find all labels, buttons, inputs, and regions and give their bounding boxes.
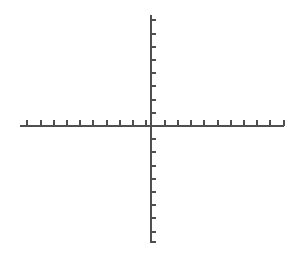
x-axis-tick — [177, 120, 179, 126]
x-axis-tick — [92, 120, 94, 126]
x-axis-tick — [269, 120, 271, 126]
y-axis-tick — [150, 217, 156, 219]
x-axis-tick — [203, 120, 205, 126]
x-axis-tick — [230, 120, 232, 126]
y-axis-tick — [150, 151, 156, 153]
y-axis-tick — [150, 178, 156, 180]
x-axis-tick — [164, 120, 166, 126]
y-axis — [150, 15, 152, 243]
x-axis-tick — [145, 120, 147, 126]
x-axis-tick — [106, 120, 108, 126]
x-axis-tick — [243, 120, 245, 126]
y-axis-tick — [150, 72, 156, 74]
y-axis-tick — [150, 138, 156, 140]
y-axis-tick — [150, 59, 156, 61]
x-axis-tick — [283, 120, 285, 126]
y-axis-tick — [150, 231, 156, 233]
x-axis-tick — [119, 120, 121, 126]
y-axis-tick — [150, 165, 156, 167]
x-axis-tick — [66, 120, 68, 126]
x-axis-tick — [53, 120, 55, 126]
y-axis-tick — [150, 99, 156, 101]
y-axis-tick — [150, 85, 156, 87]
y-axis-tick — [150, 204, 156, 206]
y-axis-tick — [150, 191, 156, 193]
x-axis-tick — [256, 120, 258, 126]
x-axis-tick — [26, 120, 28, 126]
x-axis-tick — [190, 120, 192, 126]
y-axis-tick — [150, 46, 156, 48]
coordinate-axes-figure — [0, 0, 301, 259]
x-axis-tick — [40, 120, 42, 126]
y-axis-tick — [150, 112, 156, 114]
chart-canvas — [0, 0, 301, 259]
y-axis-tick — [150, 241, 156, 243]
x-axis-tick — [217, 120, 219, 126]
x-axis-tick — [132, 120, 134, 126]
y-axis-line — [150, 15, 152, 243]
x-axis-tick — [79, 120, 81, 126]
y-axis-tick — [150, 19, 156, 21]
y-axis-tick — [150, 33, 156, 35]
